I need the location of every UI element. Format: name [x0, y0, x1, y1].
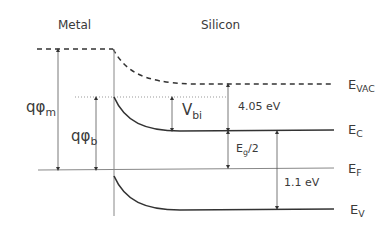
- label-electron-affinity: 4.05 eV: [238, 101, 280, 112]
- label-evac: EVAC: [348, 78, 375, 94]
- label-phi-b: qφb: [71, 129, 97, 148]
- metal-heading: Metal: [58, 19, 91, 31]
- label-ev: EV: [350, 203, 365, 219]
- silicon-vacuum-level: [113, 49, 334, 84]
- label-ef: EF: [348, 162, 362, 178]
- label-half-gap: Eg/2: [236, 143, 259, 157]
- silicon-heading: Silicon: [201, 19, 240, 31]
- conduction-band: [114, 97, 334, 131]
- label-ec: EC: [348, 123, 363, 139]
- fermi-level: [38, 168, 334, 170]
- label-phi-m: qφm: [26, 100, 56, 119]
- label-vbi: Vbi: [182, 103, 202, 122]
- label-band-gap: 1.1 eV: [284, 177, 319, 188]
